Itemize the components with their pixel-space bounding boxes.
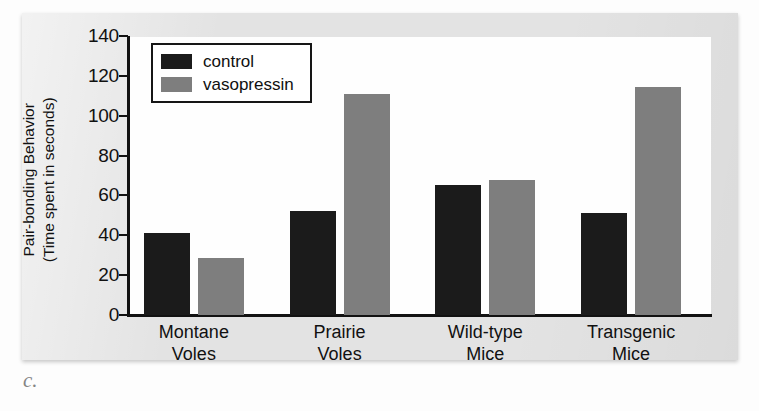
legend-swatch-control-icon (161, 54, 192, 69)
x-category-label-line-1: Wild-type (405, 322, 565, 344)
y-tick-mark (119, 194, 128, 196)
x-category-label: PrairieVoles (260, 322, 420, 366)
bar-vasopressin-wild-type-mice (489, 180, 535, 315)
y-tick-label: 140 (67, 26, 119, 45)
x-category-label-line-1: Transgenic (551, 322, 711, 344)
x-category-label: Wild-typeMice (405, 322, 565, 366)
legend-swatch-vasopressin-icon (161, 77, 192, 92)
figure-root: Pair-bonding Behavior (Time spent in sec… (0, 0, 759, 411)
y-tick-mark (119, 75, 128, 77)
y-tick-label: 20 (67, 265, 119, 284)
bar-control-montane-voles (144, 233, 190, 315)
y-tick-mark (119, 115, 128, 117)
x-category-label: MontaneVoles (114, 322, 274, 366)
bar-vasopressin-transgenic-mice (635, 87, 681, 315)
x-category-label-line-2: Mice (405, 344, 565, 366)
y-tick-label: 0 (67, 305, 119, 324)
legend-label-control: control (203, 53, 254, 70)
legend: control vasopressin (151, 43, 312, 103)
legend-label-vasopressin: vasopressin (203, 76, 294, 93)
bar-control-prairie-voles (290, 211, 336, 315)
x-category-label-line-2: Voles (114, 344, 274, 366)
figure-letter: c. (23, 368, 38, 393)
y-axis-title: Pair-bonding Behavior (Time spent in sec… (19, 55, 59, 305)
bar-control-wild-type-mice (435, 185, 481, 315)
y-tick-mark (119, 35, 128, 37)
y-axis-title-line-2: (Time spent in seconds) (39, 55, 59, 305)
y-tick-label: 100 (67, 106, 119, 125)
y-tick-label: 60 (67, 185, 119, 204)
y-tick-mark (119, 314, 128, 316)
x-category-label-line-2: Mice (551, 344, 711, 366)
x-category-label-line-1: Prairie (260, 322, 420, 344)
y-tick-label: 40 (67, 225, 119, 244)
x-category-label-line-1: Montane (114, 322, 274, 344)
y-tick-label: 120 (67, 66, 119, 85)
bar-vasopressin-prairie-voles (344, 94, 390, 315)
y-tick-mark (119, 274, 128, 276)
x-category-label-line-2: Voles (260, 344, 420, 366)
bar-control-transgenic-mice (581, 213, 627, 315)
legend-item-vasopressin: vasopressin (161, 73, 294, 96)
legend-item-control: control (161, 50, 294, 73)
y-tick-label: 80 (67, 146, 119, 165)
y-tick-mark (119, 155, 128, 157)
x-category-label: TransgenicMice (551, 322, 711, 366)
bar-vasopressin-montane-voles (198, 258, 244, 315)
y-tick-mark (119, 234, 128, 236)
y-axis-title-line-1: Pair-bonding Behavior (19, 55, 39, 305)
